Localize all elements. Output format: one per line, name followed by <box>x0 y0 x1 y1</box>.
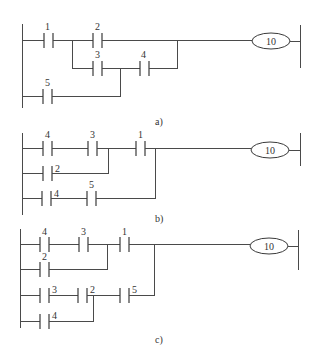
contact-label: 2 <box>95 21 100 32</box>
contact-label: 4 <box>45 129 50 140</box>
contact-4 <box>40 314 49 329</box>
contact-label: 3 <box>52 284 57 295</box>
contact-5 <box>43 89 52 104</box>
contact-label: 1 <box>122 226 127 237</box>
contact-2 <box>78 288 87 303</box>
contact-4 <box>43 141 52 156</box>
panel-caption: b) <box>155 213 163 225</box>
contact-3 <box>93 61 102 76</box>
contact-4 <box>42 191 51 206</box>
coil-label: 10 <box>265 145 275 156</box>
contact-4 <box>140 61 149 76</box>
contact-1 <box>120 237 129 252</box>
contact-label: 4 <box>54 188 59 199</box>
coil-label: 10 <box>264 241 274 252</box>
contact-3 <box>88 141 97 156</box>
contact-2 <box>43 166 52 181</box>
contact-4 <box>40 237 49 252</box>
contact-label: 5 <box>132 284 137 295</box>
contact-label: 3 <box>95 49 100 60</box>
contact-label: 2 <box>90 284 95 295</box>
contact-label: 4 <box>42 226 47 237</box>
contact-label: 4 <box>52 310 57 321</box>
contact-label: 3 <box>90 129 95 140</box>
contact-3 <box>40 288 49 303</box>
contact-label: 1 <box>138 129 143 140</box>
contact-1 <box>136 141 145 156</box>
contact-2 <box>40 262 49 277</box>
contact-5 <box>87 191 96 206</box>
contact-label: 3 <box>81 226 86 237</box>
ladder-diagram-canvas: 1 2 3 4 5 10 a) <box>0 0 317 361</box>
contact-3 <box>79 237 88 252</box>
panel-a: 1 2 3 4 5 10 a) <box>22 21 301 128</box>
panel-caption: a) <box>155 116 163 128</box>
contact-5 <box>120 288 129 303</box>
contact-label: 4 <box>141 49 146 60</box>
contact-label: 5 <box>89 179 94 190</box>
panel-c: 4 3 1 2 3 2 5 <box>20 226 299 346</box>
contact-label: 5 <box>45 77 50 88</box>
contact-1 <box>44 33 53 48</box>
panel-caption: c) <box>155 334 163 346</box>
coil-label: 10 <box>266 36 276 47</box>
contact-label: 2 <box>42 251 47 262</box>
contact-2 <box>93 33 102 48</box>
contact-label: 1 <box>45 21 50 32</box>
contact-label: 2 <box>55 163 60 174</box>
panel-b: 4 3 1 2 4 5 10 <box>22 129 301 225</box>
